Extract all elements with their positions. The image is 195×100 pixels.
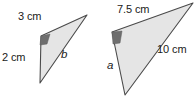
right-triangle-top-side-label: 7.5 cm	[117, 4, 149, 15]
right-triangle-hypotenuse-label: 10 cm	[157, 44, 186, 55]
left-triangle-left-side-label: 2 cm	[2, 52, 25, 63]
geometry-figure: 3 cm 2 cm b 7.5 cm 10 cm a	[0, 0, 195, 100]
left-triangle-top-side-label: 3 cm	[18, 11, 41, 22]
right-triangle-left-side-label: a	[107, 60, 113, 72]
left-triangle-hypotenuse-label: b	[61, 49, 67, 61]
